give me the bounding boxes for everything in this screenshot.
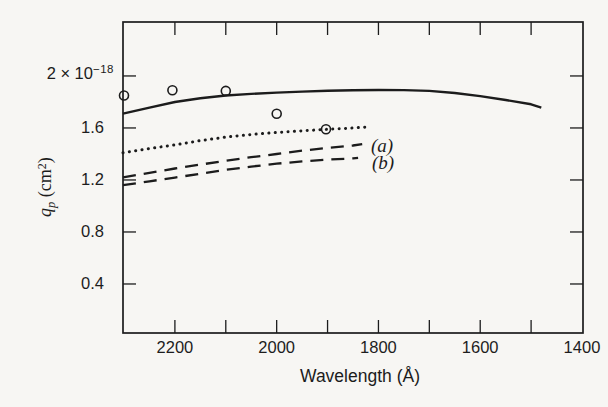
x-tick-label: 2200 (157, 338, 194, 356)
y-tick-label: 1.2 (81, 170, 104, 188)
figure: 2 × 10−18 qp (cm2) Wavelength (Å) 220020… (0, 0, 608, 407)
curve-label-b: (b) (372, 152, 394, 174)
curve-curve-a (123, 144, 362, 177)
x-tick-label: 1800 (360, 338, 397, 356)
curve-theory-solid (123, 90, 541, 114)
plot-area: 220020001800160014001.61.20.80.4(a)(b) (0, 0, 608, 407)
plot-frame (123, 22, 583, 333)
x-tick-label: 2000 (258, 338, 295, 356)
y-tick-label: 0.4 (81, 274, 104, 292)
x-tick-label: 1600 (462, 338, 499, 356)
x-tick-label: 1400 (564, 338, 601, 356)
curve-theory-dotted (123, 127, 365, 153)
y-tick-label: 1.6 (81, 118, 104, 136)
data-point-circle (272, 109, 281, 118)
y-tick-label: 0.8 (81, 222, 104, 240)
data-point-circle (221, 86, 230, 95)
data-point-circle (120, 91, 129, 100)
data-point-circle (168, 86, 177, 95)
curve-curve-b (123, 158, 358, 185)
